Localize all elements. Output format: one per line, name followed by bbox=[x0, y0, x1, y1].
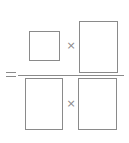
equals-bar-bottom bbox=[6, 76, 16, 77]
numerator-right-box[interactable] bbox=[79, 21, 118, 73]
denominator-right-box[interactable] bbox=[78, 78, 117, 130]
numerator-times-icon: × bbox=[66, 41, 76, 51]
fraction-line bbox=[18, 75, 124, 76]
equals-bar-top bbox=[6, 72, 16, 73]
denominator-left-box[interactable] bbox=[25, 78, 63, 130]
denominator-times-icon: × bbox=[66, 99, 76, 109]
numerator-left-box[interactable] bbox=[29, 31, 60, 61]
